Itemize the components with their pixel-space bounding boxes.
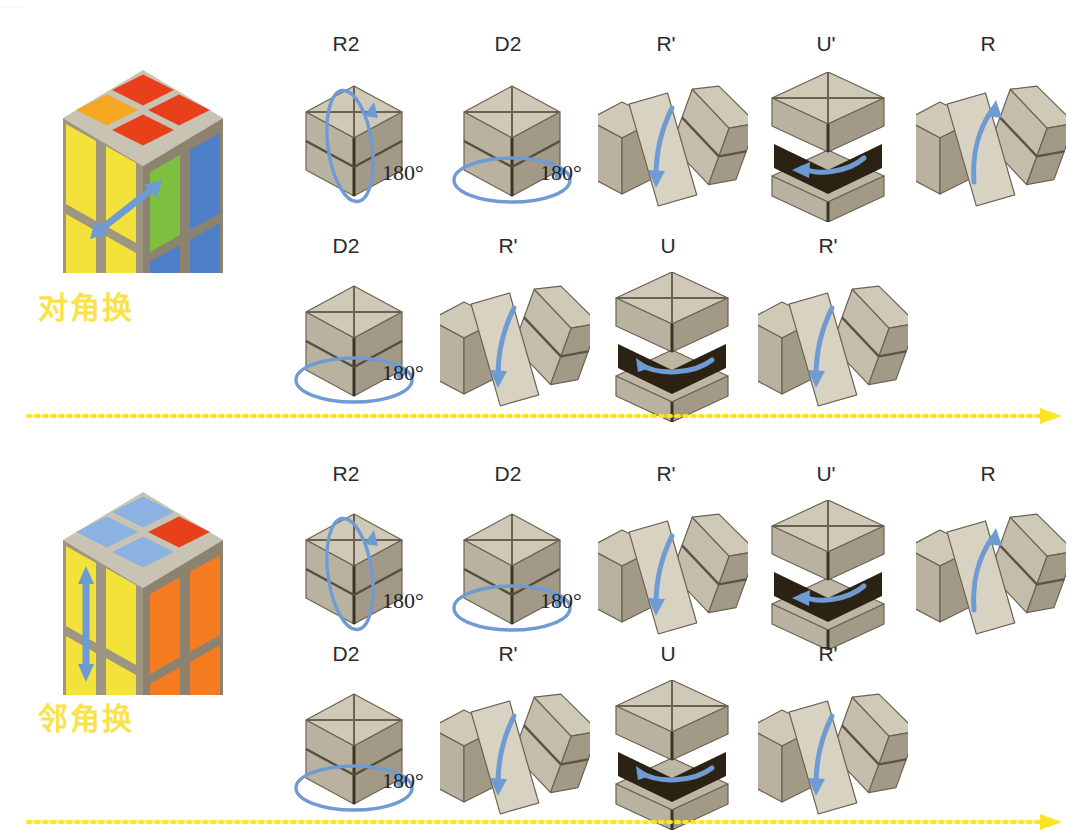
- section-adjacent-swap: 邻角换R2180°D2180°R'U'RD2180°R'UR': [0, 0, 1074, 836]
- move-label-adjacent-swap-r1-2: U: [660, 642, 675, 666]
- move-label-adjacent-swap-r0-4: R: [980, 462, 995, 486]
- move-label-adjacent-swap-r1-0: D2: [333, 642, 360, 666]
- section-label-adjacent-swap: 邻角换: [38, 694, 134, 738]
- move-label-adjacent-swap-r0-3: U': [816, 462, 835, 486]
- move-label-adjacent-swap-r1-3: R': [818, 642, 837, 666]
- move-label-adjacent-swap-r0-2: R': [656, 462, 675, 486]
- step-cube-adjacent-swap-r1-2: [600, 680, 750, 830]
- step-cube-adjacent-swap-r0-1: 180°: [440, 500, 590, 650]
- step-cube-adjacent-swap-r1-0: 180°: [282, 680, 432, 830]
- step-cube-adjacent-swap-r0-3: [756, 500, 906, 650]
- move-label-adjacent-swap-r1-1: R': [498, 642, 517, 666]
- move-label-adjacent-swap-r0-1: D2: [495, 462, 522, 486]
- step-cube-adjacent-swap-r1-1: [440, 680, 590, 830]
- preview-cube-adjacent: [38, 470, 253, 695]
- move-label-adjacent-swap-r0-0: R2: [333, 462, 360, 486]
- step-cube-adjacent-swap-r0-2: [598, 500, 748, 650]
- step-cube-adjacent-swap-r0-0: 180°: [282, 500, 432, 650]
- step-cube-adjacent-swap-r0-4: [916, 500, 1066, 650]
- step-cube-adjacent-swap-r1-3: [758, 680, 908, 830]
- flow-arrow-adjacent-swap: [0, 812, 1074, 832]
- rubiks-cube-algorithm-diagram: …… 对角换R2180°D2180°R'U'RD2180°R'UR'邻角换R21…: [0, 0, 1074, 836]
